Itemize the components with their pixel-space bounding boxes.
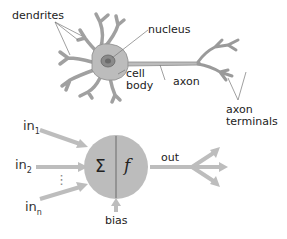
arrowhead-bias	[111, 198, 121, 206]
output-branch-up	[192, 152, 215, 167]
axon-terminal-lower	[198, 64, 232, 80]
label-input-1: in1	[23, 119, 40, 138]
label-dendrites: dendrites	[12, 10, 64, 21]
label-nucleus: nucleus	[148, 24, 191, 35]
output-branch-down	[192, 167, 215, 182]
sum-symbol: Σ	[95, 156, 106, 176]
axon-shape	[125, 62, 200, 66]
axon-terminal-upper	[198, 40, 238, 62]
label-axon-terminals-1: axon	[226, 104, 253, 115]
activation-symbol: f	[124, 155, 130, 175]
label-cell-body-2: body	[126, 80, 153, 91]
label-input-n: inn	[25, 200, 42, 219]
arrowhead-out-mid	[219, 162, 228, 172]
label-axon: axon	[173, 76, 200, 87]
label-bias: bias	[105, 215, 128, 226]
artificial-neuron	[36, 130, 228, 212]
label-output: out	[161, 152, 179, 163]
label-input-2: in2	[15, 158, 32, 177]
input-arrow-n	[40, 187, 80, 199]
label-cell-body-1: cell	[126, 68, 145, 79]
label-axon-terminals-2: terminals	[226, 116, 278, 127]
ellipsis-icon: ⋮	[55, 174, 68, 185]
input-arrow-1	[40, 130, 80, 144]
